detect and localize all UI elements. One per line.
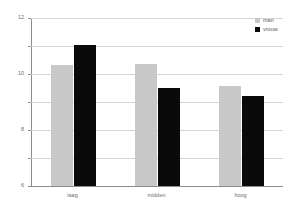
legend-item-man[interactable]: man <box>255 16 278 25</box>
y-axis-tick: 0 <box>28 186 31 187</box>
bar-group: midden <box>135 18 180 186</box>
legend-label: man <box>263 18 274 24</box>
bar-chart: 121086420 laagmiddenhoog manvrouw <box>0 0 306 213</box>
x-axis-tick-label: hoog <box>234 193 246 199</box>
y-axis-tick-label: 6 <box>21 183 24 189</box>
y-axis-tick: 4 <box>28 130 31 131</box>
bar-man-hoog[interactable] <box>219 86 241 186</box>
chart-legend: manvrouw <box>255 16 278 34</box>
plot-area: 121086420 laagmiddenhoog <box>31 18 283 187</box>
y-axis-tick: 6 <box>28 102 31 103</box>
x-axis-tick-label: midden <box>147 193 165 199</box>
legend-swatch-icon <box>255 27 260 32</box>
legend-swatch-icon <box>255 18 260 23</box>
x-axis-tick-label: laag <box>67 193 77 199</box>
y-axis-tick: 8 <box>28 74 31 75</box>
y-axis-tick: 2 <box>28 158 31 159</box>
y-axis-tick: 10 <box>28 46 31 47</box>
bar-vrouw-hoog[interactable] <box>242 96 264 186</box>
legend-label: vrouw <box>263 27 278 33</box>
y-axis-tick: 12 <box>28 18 31 19</box>
bar-vrouw-midden[interactable] <box>158 88 180 186</box>
x-axis-line <box>31 186 283 187</box>
y-axis-tick-label: 10 <box>18 71 24 77</box>
bar-man-laag[interactable] <box>51 65 73 186</box>
y-axis-tick-label: 8 <box>21 127 24 133</box>
bar-group: hoog <box>219 18 264 186</box>
y-axis-tick-label: 12 <box>18 15 24 21</box>
bar-vrouw-laag[interactable] <box>74 45 96 186</box>
legend-item-vrouw[interactable]: vrouw <box>255 25 278 34</box>
bar-man-midden[interactable] <box>135 64 157 186</box>
bar-group: laag <box>51 18 96 186</box>
